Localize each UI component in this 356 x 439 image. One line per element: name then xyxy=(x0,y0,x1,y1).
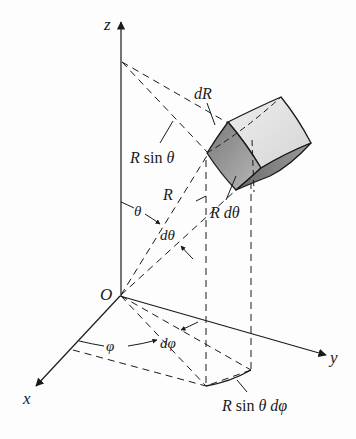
z-axis-label: z xyxy=(103,15,111,34)
R-sin-theta-label: R sin θ xyxy=(129,149,174,166)
volume-element xyxy=(207,97,311,192)
origin-label: O xyxy=(100,285,112,304)
spherical-volume-element-diagram: z x y O dR R sin θ R θ dθ R dθ φ dφ R si… xyxy=(0,0,356,439)
x-axis-label: x xyxy=(22,389,31,408)
y-axis-label: y xyxy=(328,348,338,367)
d-theta-label: dθ xyxy=(160,227,176,243)
theta-label: θ xyxy=(134,203,142,219)
dR-label: dR xyxy=(194,85,212,102)
d-phi-label: dφ xyxy=(160,335,176,351)
y-axis xyxy=(120,296,326,355)
R-sin-theta-d-phi-label: R sin θ dφ xyxy=(221,397,287,415)
diagram-canvas: z x y O dR R sin θ R θ dθ R dθ φ dφ R si… xyxy=(0,0,356,439)
R-label: R xyxy=(162,186,173,203)
phi-label: φ xyxy=(106,338,114,354)
axes xyxy=(36,22,326,386)
R-d-theta-label: R dθ xyxy=(209,204,240,221)
